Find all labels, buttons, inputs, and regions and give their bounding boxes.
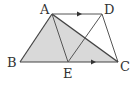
label-d: D	[104, 2, 114, 17]
label-a: A	[39, 2, 50, 17]
label-e: E	[63, 66, 73, 81]
parallel-arrow-ad-icon	[77, 12, 82, 17]
shaded-triangle-abc	[20, 14, 118, 62]
geometry-diagram: A D B E C	[0, 0, 138, 85]
label-b: B	[7, 55, 17, 70]
label-c: C	[120, 59, 130, 74]
